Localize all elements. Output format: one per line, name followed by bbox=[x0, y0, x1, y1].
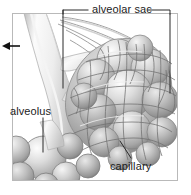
illustration-canvas bbox=[0, 0, 191, 195]
label-alveolar-sac: alveolar sac bbox=[92, 4, 152, 15]
label-alveolus: alveolus bbox=[10, 106, 51, 117]
label-capillary: capillary bbox=[110, 161, 151, 172]
illustration-body bbox=[2, 13, 178, 195]
alveolar-sac-figure: alveolar sac alveolus capillary bbox=[0, 0, 191, 195]
